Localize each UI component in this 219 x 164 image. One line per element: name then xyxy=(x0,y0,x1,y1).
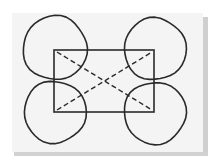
dashed-diagonals xyxy=(57,52,152,110)
diagram-canvas xyxy=(0,0,219,164)
sketch-drawing xyxy=(0,0,219,164)
circle-bottom-right xyxy=(125,83,187,145)
circle-top-right xyxy=(124,17,186,79)
circle-top-left xyxy=(23,15,87,79)
